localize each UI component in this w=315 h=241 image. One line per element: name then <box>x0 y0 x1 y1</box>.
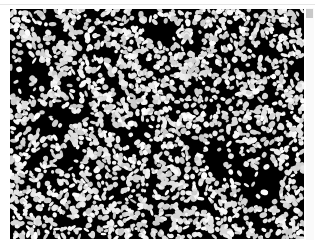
scroll-thumb-icon[interactable] <box>306 9 313 18</box>
vertical-scrollbar[interactable] <box>306 8 314 240</box>
top-divider <box>0 4 315 5</box>
micrograph-image: Grayscale micrograph: dense field of bri… <box>10 9 304 239</box>
particle-texture <box>10 9 304 239</box>
